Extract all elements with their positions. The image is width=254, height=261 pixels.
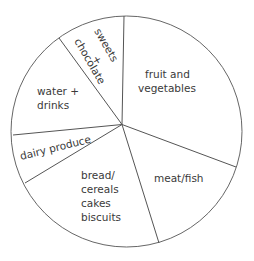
slice-label-meat-fish: meat/fish — [154, 172, 204, 184]
svg-text:cakes: cakes — [81, 197, 111, 209]
svg-text:fruit and: fruit and — [145, 68, 190, 80]
svg-text:bread/: bread/ — [81, 169, 115, 181]
svg-text:drinks: drinks — [37, 99, 69, 111]
svg-text:vegetables: vegetables — [138, 82, 196, 94]
svg-text:meat/fish: meat/fish — [154, 172, 204, 184]
svg-text:cereals: cereals — [81, 183, 119, 195]
pie-chart: fruit and vegetables meat/fish bread/ ce… — [0, 0, 254, 261]
svg-text:biscuits: biscuits — [81, 211, 121, 223]
svg-text:water +: water + — [37, 85, 79, 97]
